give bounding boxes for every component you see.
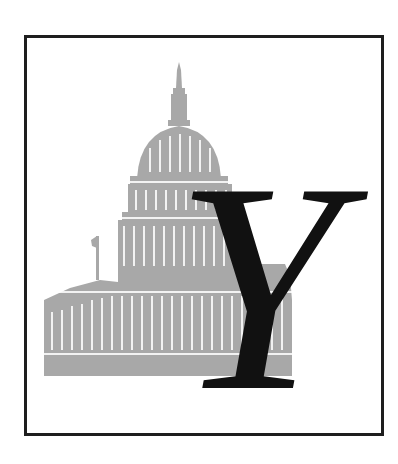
drop-cap-letter: Y xyxy=(148,152,368,422)
